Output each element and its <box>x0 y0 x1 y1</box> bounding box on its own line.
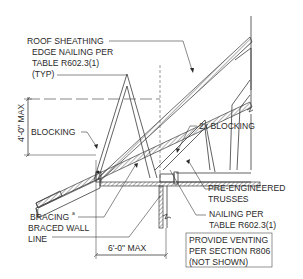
upper-sheathing <box>100 37 252 181</box>
roof-sheathing-line-2: EDGE NAILING PER <box>32 47 113 57</box>
leader-bracing: BRACING a <box>30 163 138 222</box>
dimension-horizontal-label: 6'-0" MAX <box>108 243 146 253</box>
leader-pre-engineered-trusses: PRE-ENGINEERED TRUSSES <box>186 159 285 204</box>
label-nailing-2: TABLE R602.3(1) <box>209 220 276 230</box>
label-bracing-superscript: a <box>72 210 75 216</box>
label-2x-blocking: 2x BLOCKING <box>199 121 255 131</box>
roof-sheathing-line-3: TABLE R602.3(1) <box>32 58 99 68</box>
label-trusses-1: PRE-ENGINEERED <box>208 183 285 193</box>
wall-stud <box>159 186 171 228</box>
label-nailing-1: NAILING PER <box>209 209 263 219</box>
label-trusses-2: TRUSSES <box>208 194 249 204</box>
roof-sheathing-line-1: ROOF SHEATHING <box>27 36 104 46</box>
note-venting-1: PROVIDE VENTING <box>189 235 269 245</box>
dimension-vertical-label: 4'-0" MAX <box>16 104 26 142</box>
leader-blocking: BLOCKING <box>31 127 98 149</box>
note-provide-venting: PROVIDE VENTING PER SECTION R806 (NOT SH… <box>186 233 272 267</box>
label-bracing: BRACING <box>30 212 69 222</box>
label-braced-wall-line-1: BRACED WALL <box>28 223 90 233</box>
roof-sheathing-line-4: (TYP) <box>32 69 55 79</box>
note-venting-3: (NOT SHOWN) <box>189 257 248 267</box>
label-braced-wall-line-2: LINE <box>28 234 47 244</box>
label-blocking: BLOCKING <box>31 127 76 137</box>
note-venting-2: PER SECTION R806 <box>189 246 270 256</box>
bracing-detail-diagram: 4'-0" MAX 6'-0" MAX ROOF SHEATHING EDGE … <box>0 0 303 279</box>
label-roof-sheathing: ROOF SHEATHING EDGE NAILING PER TABLE R6… <box>27 36 113 79</box>
